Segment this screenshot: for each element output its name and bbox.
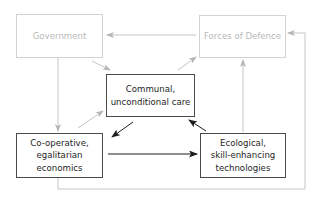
node-government: Government	[16, 14, 103, 58]
node-forces-of-defence: Forces of Defence	[199, 15, 286, 58]
node-communal-care: Communal, unconditional care	[106, 74, 195, 117]
node-cooperative-label: Co-operative, egalitarian economics	[30, 137, 88, 175]
node-forces-label: Forces of Defence	[204, 30, 281, 43]
node-ecological-technologies: Ecological, skill-enhancing technologies	[200, 133, 286, 178]
edge-ecological-to-communal	[189, 120, 206, 131]
node-cooperative-economics: Co-operative, egalitarian economics	[16, 133, 103, 178]
node-government-label: Government	[33, 30, 87, 43]
edge-cooperative-to-communal	[78, 111, 103, 128]
diagram: Government Forces of Defence Communal, u…	[0, 0, 319, 201]
node-ecological-label: Ecological, skill-enhancing technologies	[211, 137, 276, 175]
edge-communal-to-cooperative	[112, 122, 133, 137]
node-communal-label: Communal, unconditional care	[111, 83, 191, 108]
edge-communal-to-forces	[178, 57, 196, 70]
edge-government-to-communal	[92, 61, 110, 70]
